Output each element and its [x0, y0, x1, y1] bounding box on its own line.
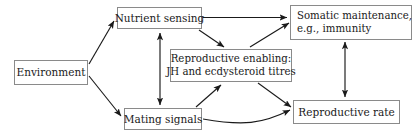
node-environment-label: Environment: [13, 66, 90, 78]
node-reproductive-enabling-label-line1: Reproductive enabling:: [168, 53, 295, 65]
node-nutrient-sensing[interactable]: Nutrient sensing: [117, 7, 202, 29]
edge-reproenable-to-reprorate: [258, 83, 291, 107]
node-somatic-maintenance-label-line1: Somatic maintenance,: [297, 10, 411, 22]
edge-environment-to-nutrient: [89, 21, 114, 64]
edge-mating-to-reprorate-curved: [203, 110, 290, 123]
node-nutrient-sensing-label: Nutrient sensing: [111, 12, 209, 24]
node-mating-signals-label: Mating signals: [120, 113, 207, 125]
diagram-canvas: Environment Nutrient sensing Mating sign…: [0, 0, 420, 136]
node-reproductive-rate-label: Reproductive rate: [294, 106, 398, 118]
edge-mating-to-reproenable: [196, 85, 221, 107]
node-mating-signals[interactable]: Mating signals: [124, 108, 202, 130]
edge-reproenable-to-somatic: [250, 23, 289, 47]
node-somatic-maintenance[interactable]: Somatic maintenance, e.g., immunity: [290, 5, 412, 40]
edge-nutrient-to-reproenable: [199, 30, 224, 47]
node-reproductive-enabling[interactable]: Reproductive enabling: JH and ecdysteroi…: [170, 49, 292, 82]
edge-environment-to-mating: [89, 76, 121, 116]
node-reproductive-rate[interactable]: Reproductive rate: [293, 100, 400, 124]
node-somatic-maintenance-label-line2: e.g., immunity: [297, 23, 411, 35]
node-reproductive-enabling-label-line2: JH and ecdysteroid titres: [163, 66, 299, 78]
node-environment[interactable]: Environment: [14, 60, 88, 85]
